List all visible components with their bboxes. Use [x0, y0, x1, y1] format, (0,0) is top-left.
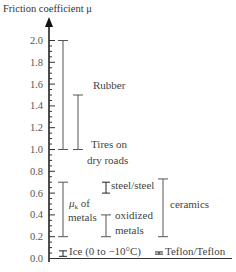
label-rubber: Rubber — [93, 79, 126, 91]
range-bar — [73, 95, 83, 150]
y-tick-label: 0.6 — [30, 188, 43, 199]
y-tick-label: 2.0 — [30, 35, 43, 46]
y-tick-label: 0.2 — [30, 231, 43, 242]
label-oxidized-2: metals — [115, 224, 144, 236]
y-tick-label: 0.8 — [30, 166, 43, 177]
y-ticks — [49, 41, 55, 259]
y-tick-label: 1.6 — [30, 79, 43, 90]
y-tick-label: 0.0 — [30, 253, 43, 264]
label-teflon: Teflon/Teflon — [165, 245, 226, 257]
y-tick-label: 1.2 — [30, 122, 43, 133]
range-bar — [58, 41, 68, 150]
range-bar — [59, 251, 67, 256]
range-bar — [158, 179, 168, 237]
y-tick-label: 1.0 — [30, 144, 43, 155]
axis-arrow-icon — [45, 17, 53, 27]
label-tires-1: Tires on — [91, 138, 127, 150]
label-ceramics: ceramics — [170, 198, 209, 210]
label-metals-1: μk of — [68, 197, 90, 211]
range-bar — [101, 215, 111, 237]
range-bar — [155, 252, 163, 254]
label-steel: steel/steel — [111, 179, 154, 191]
label-ice: Ice (0 to −10°C) — [69, 245, 141, 258]
label-metals-2: metals — [68, 211, 97, 223]
y-tick-label: 0.4 — [30, 209, 44, 220]
label-tires-2: dry roads — [87, 154, 128, 166]
range-bar — [102, 182, 110, 193]
y-tick-label: 1.8 — [30, 57, 43, 68]
y-tick-labels: 0.00.20.40.60.81.01.21.41.61.82.0 — [30, 35, 44, 264]
label-oxidized-1: oxidized — [115, 209, 153, 221]
friction-chart: 0.00.20.40.60.81.01.21.41.61.82.0 Rubber… — [0, 0, 236, 272]
range-bar — [58, 182, 68, 237]
y-tick-label: 1.4 — [30, 100, 44, 111]
